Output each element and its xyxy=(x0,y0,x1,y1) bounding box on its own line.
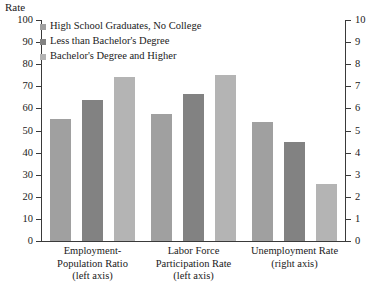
bar xyxy=(82,100,103,241)
category-label-line: Population Ratio xyxy=(42,258,143,271)
right-axis-tick-label: 1 xyxy=(355,214,360,225)
left-axis-tick xyxy=(36,108,41,109)
left-axis-tick xyxy=(36,241,41,242)
left-axis-tick-label: 80 xyxy=(23,59,34,70)
left-axis-tick-label: 100 xyxy=(17,15,33,26)
left-axis-tick xyxy=(36,86,41,87)
x-axis-baseline xyxy=(41,241,346,242)
right-axis-tick xyxy=(346,197,351,198)
right-axis-tick xyxy=(346,64,351,65)
right-axis-tick-label: 2 xyxy=(355,192,360,203)
left-axis-tick xyxy=(36,153,41,154)
bar xyxy=(151,114,172,241)
left-axis-tick-label: 30 xyxy=(23,170,34,181)
category-label-line: Employment- xyxy=(42,245,143,258)
right-axis-tick-label: 4 xyxy=(355,148,360,159)
right-axis-tick xyxy=(346,108,351,109)
category-label-line: (left axis) xyxy=(42,270,143,283)
right-axis-tick xyxy=(346,153,351,154)
left-axis-tick xyxy=(36,131,41,132)
left-axis-tick-label: 50 xyxy=(23,126,34,137)
right-axis-tick-label: 7 xyxy=(355,81,360,92)
bar xyxy=(114,77,135,241)
category-label-line: (left axis) xyxy=(143,270,244,283)
category-label: Unemployment Rate(right axis) xyxy=(244,245,345,270)
right-axis-tick xyxy=(346,131,351,132)
left-axis-tick-label: 10 xyxy=(23,214,34,225)
category-label-line: Labor Force xyxy=(143,245,244,258)
bar-chart: Rate 0102030405060708090100 012345678910… xyxy=(0,0,387,286)
bar xyxy=(284,142,305,241)
plot-area xyxy=(42,20,345,241)
category-label: Labor ForceParticipation Rate(left axis) xyxy=(143,245,244,283)
left-axis-tick-label: 70 xyxy=(23,81,34,92)
right-axis-tick xyxy=(346,42,351,43)
bar xyxy=(50,119,71,241)
bar xyxy=(215,75,236,241)
right-axis-tick-label: 5 xyxy=(355,126,360,137)
left-axis-tick-label: 60 xyxy=(23,103,34,114)
right-axis-tick-label: 0 xyxy=(355,236,360,247)
left-axis-tick-label: 20 xyxy=(23,192,34,203)
category-label-line: (right axis) xyxy=(244,258,345,271)
right-axis-tick-label: 6 xyxy=(355,103,360,114)
right-axis-tick xyxy=(346,86,351,87)
right-axis-tick xyxy=(346,241,351,242)
right-axis-tick-label: 8 xyxy=(355,59,360,70)
right-axis-tick xyxy=(346,20,351,21)
category-label-line: Unemployment Rate xyxy=(244,245,345,258)
bar xyxy=(183,94,204,241)
left-axis-tick-label: 0 xyxy=(28,236,33,247)
left-axis-tick xyxy=(36,219,41,220)
right-axis-tick-label: 3 xyxy=(355,170,360,181)
bar xyxy=(316,184,337,241)
left-axis-tick-label: 90 xyxy=(23,37,34,48)
right-axis-tick xyxy=(346,175,351,176)
left-axis-tick-label: 40 xyxy=(23,148,34,159)
category-label: Employment-Population Ratio(left axis) xyxy=(42,245,143,283)
left-axis-tick xyxy=(36,197,41,198)
left-axis-tick xyxy=(36,175,41,176)
bar xyxy=(252,122,273,241)
left-axis-title: Rate xyxy=(5,2,25,13)
category-label-line: Participation Rate xyxy=(143,258,244,271)
right-axis-tick-label: 9 xyxy=(355,37,360,48)
right-axis-tick-label: 10 xyxy=(355,15,366,26)
right-axis-tick xyxy=(346,219,351,220)
